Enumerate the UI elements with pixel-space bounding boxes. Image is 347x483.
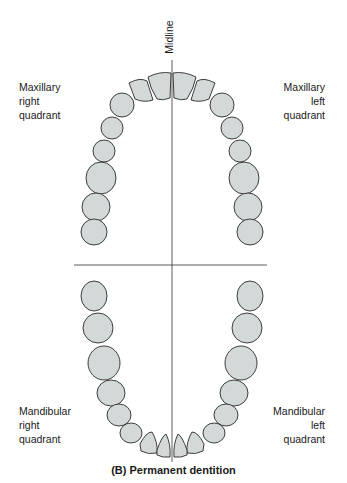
tooth-icon <box>229 162 259 194</box>
tooth-icon <box>220 380 248 406</box>
tooth-icon <box>120 423 142 443</box>
tooth-icon <box>157 434 170 457</box>
tooth-icon <box>221 117 243 139</box>
tooth-icon <box>88 346 120 380</box>
tooth-icon <box>110 93 134 117</box>
tooth-icon <box>229 140 251 162</box>
tooth-icon <box>97 380 125 406</box>
tooth-icon <box>93 140 115 162</box>
tooth-icon <box>237 281 263 311</box>
tooth-icon <box>225 346 257 380</box>
tooth-icon <box>210 93 234 117</box>
tooth-icon <box>203 423 225 443</box>
tooth-icon <box>140 432 157 454</box>
tooth-icon <box>232 313 262 343</box>
tooth-icon <box>237 219 263 245</box>
tooth-icon <box>187 432 204 454</box>
tooth-icon <box>86 162 116 194</box>
tooth-icon <box>234 193 262 221</box>
tooth-icon <box>174 434 187 457</box>
tooth-icon <box>81 219 107 245</box>
tooth-icon <box>107 404 131 426</box>
tooth-icon <box>83 313 113 343</box>
tooth-icon <box>101 117 123 139</box>
figure-caption: (B) Permanent dentition <box>0 464 347 476</box>
tooth-icon <box>81 281 107 311</box>
tooth-icon <box>214 404 238 426</box>
dentition-diagram <box>0 0 347 483</box>
tooth-icon <box>82 193 110 221</box>
